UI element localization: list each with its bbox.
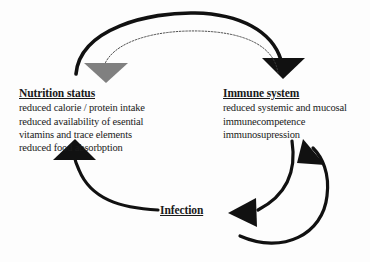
arrow-nutrition-to-immune-head (262, 58, 305, 79)
node-nutrition-status-line-3: vitamins and trace elements (19, 128, 145, 141)
node-immune-system-line-2: immunecompetence (223, 115, 347, 128)
arrow-infection-to-immune-head (297, 139, 325, 165)
node-infection-title: Infection (160, 203, 203, 217)
node-infection: Infection (160, 203, 203, 217)
arrow-immune-to-nutrition-line (104, 31, 278, 73)
node-immune-system-line-3: immunosupression (223, 128, 347, 141)
node-nutrition-status-line-2: reduced availability of esential (19, 115, 145, 128)
node-immune-system: Immune system reduced systemic and mucos… (223, 86, 347, 141)
node-nutrition-status-title: Nutrition status (19, 86, 145, 100)
cycle-diagram-figure: Nutrition status reduced calorie / prote… (0, 0, 370, 262)
arrow-immune-to-infection-head (228, 198, 257, 227)
arrow-immune-to-infection-line (258, 141, 293, 210)
arrow-immune-to-nutrition-head (84, 63, 128, 83)
node-immune-system-line-1: reduced systemic and mucosal (223, 101, 347, 114)
node-nutrition-status-line-4: reduced food absorbption (19, 141, 145, 154)
node-immune-system-title: Immune system (223, 86, 347, 100)
node-nutrition-status: Nutrition status reduced calorie / prote… (19, 86, 145, 154)
node-nutrition-status-line-1: reduced calorie / protein intake (19, 101, 145, 114)
